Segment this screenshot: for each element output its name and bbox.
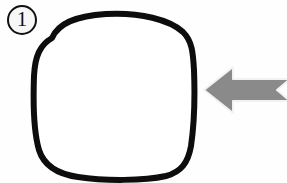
step-badge: 1: [0, 0, 287, 183]
illustration-canvas: 1: [0, 0, 287, 183]
step-badge-label: 1: [17, 7, 28, 31]
